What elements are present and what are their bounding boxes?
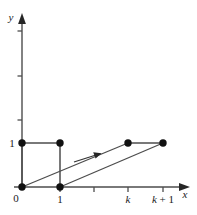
x-axis-ticks <box>60 187 163 192</box>
y-tick-label-1: 1 <box>9 137 15 149</box>
plot-segments <box>22 143 163 187</box>
point-k-1 <box>124 139 131 146</box>
point-k-plus-1-1 <box>159 139 166 146</box>
y-axis-arrowhead <box>18 13 26 24</box>
axes-group <box>14 13 190 191</box>
plot-points <box>18 139 166 190</box>
figure-container: y x 0 1 k k + 1 1 <box>0 0 197 215</box>
point-0-1 <box>18 139 25 146</box>
x-axis-label: x <box>182 188 188 200</box>
coordinate-plane-figure: y x 0 1 k k + 1 1 <box>0 0 197 215</box>
point-1-0 <box>56 183 63 190</box>
point-1-1 <box>56 139 63 146</box>
origin-tick-label: 0 <box>13 192 19 204</box>
x-tick-label-k: k <box>126 193 132 205</box>
labels-group: y x 0 1 k k + 1 1 <box>8 11 188 205</box>
point-origin <box>18 183 25 190</box>
x-tick-label-k-plus-1: k + 1 <box>152 193 174 205</box>
y-axis-label: y <box>8 11 14 23</box>
x-tick-label-1: 1 <box>57 193 63 205</box>
direction-arrow-annotation <box>74 152 102 162</box>
